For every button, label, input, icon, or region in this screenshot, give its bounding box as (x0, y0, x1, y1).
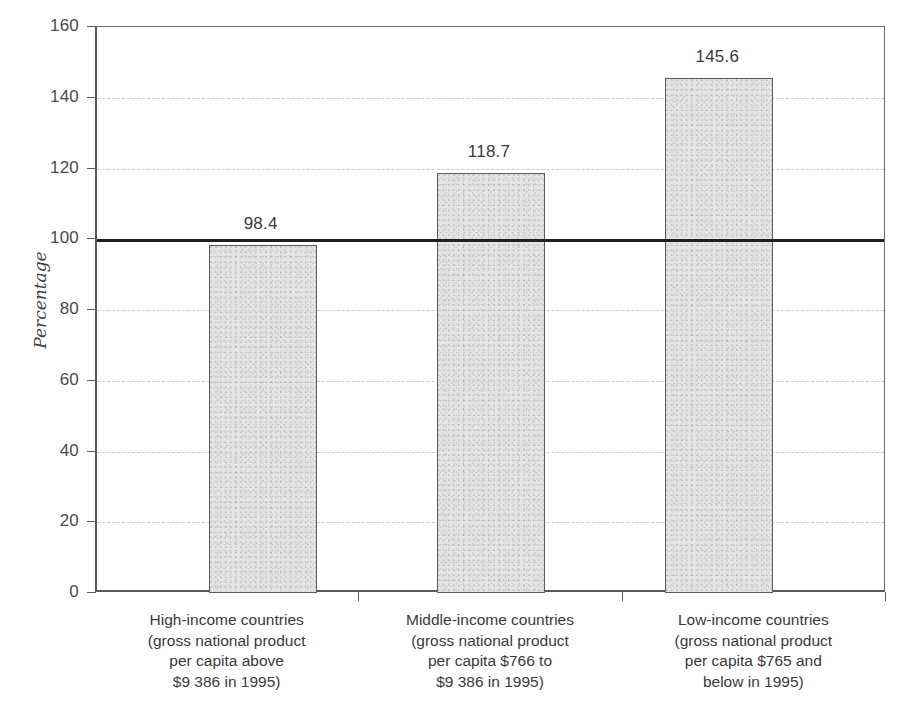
y-axis-tick-label: 160 (7, 16, 79, 36)
bar-value-label: 118.7 (419, 142, 559, 162)
y-axis-tick-label: 80 (7, 299, 79, 319)
bar (665, 78, 773, 593)
plot-area (95, 26, 885, 592)
bar-chart: Percentage 020406080100120140160 98.4118… (0, 0, 908, 717)
reference-line-100 (97, 239, 884, 242)
x-axis-separator-tick (885, 592, 886, 601)
x-axis-category-label: Middle-income countries (gross national … (358, 610, 622, 692)
y-axis-tick-label: 60 (7, 370, 79, 390)
y-axis-tick-mark (87, 592, 96, 593)
bar-value-label: 98.4 (191, 214, 331, 234)
x-axis-category-label: High-income countries (gross national pr… (95, 610, 359, 692)
y-axis-tick-label: 140 (7, 87, 79, 107)
y-axis-tick-label: 120 (7, 158, 79, 178)
x-axis-separator-tick (358, 592, 359, 601)
y-axis-tick-label: 0 (7, 582, 79, 602)
y-axis-tick-label: 40 (7, 441, 79, 461)
bar-value-label: 145.6 (647, 47, 787, 67)
x-axis-separator-tick (622, 592, 623, 601)
x-axis-category-label: Low-income countries (gross national pro… (621, 610, 885, 692)
y-axis-tick-label: 20 (7, 511, 79, 531)
bar (437, 173, 545, 593)
bar (209, 245, 317, 593)
y-axis-tick-label: 100 (7, 228, 79, 248)
